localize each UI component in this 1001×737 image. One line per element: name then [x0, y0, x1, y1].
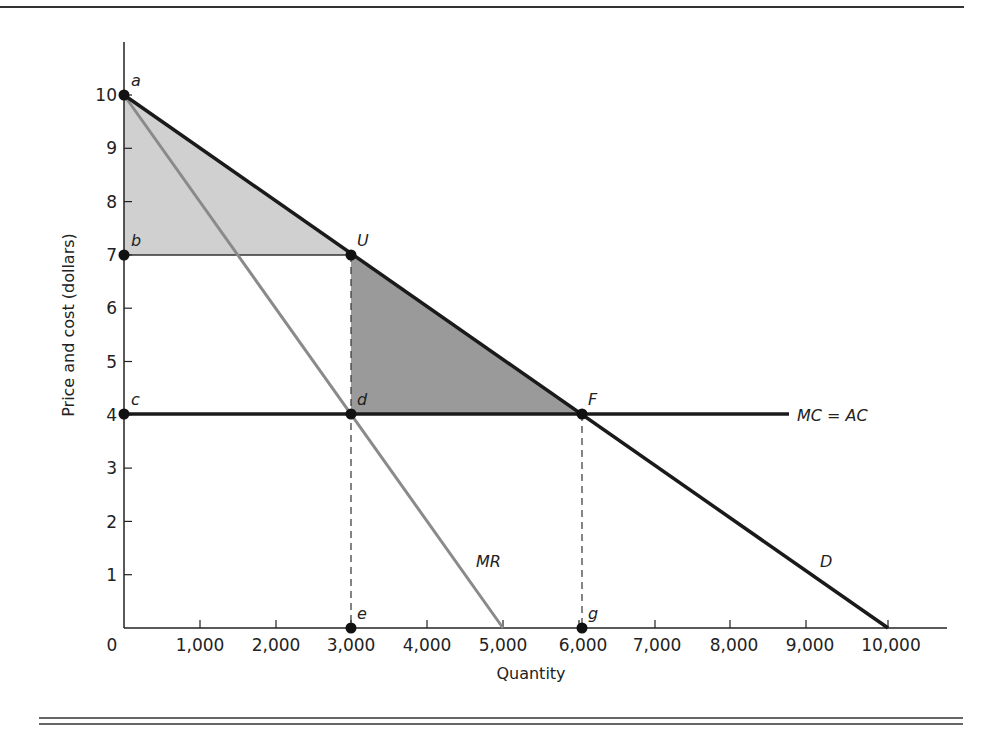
- y-tick-1: 1: [106, 565, 117, 585]
- point-e: [346, 623, 357, 634]
- y-axis-title: Price and cost (dollars): [59, 233, 78, 417]
- y-tick-4: 4: [106, 405, 117, 425]
- x-tick-2000: 2,000: [252, 635, 301, 655]
- x-tick-labels: 0 1,000 2,000 3,000 4,000 5,000 6,000 7,…: [107, 635, 921, 655]
- x-tick-6000: 6,000: [559, 635, 608, 655]
- label-g: g: [588, 604, 598, 623]
- y-tick-8: 8: [106, 192, 117, 212]
- y-tick-6: 6: [106, 298, 117, 318]
- label-a: a: [131, 71, 141, 90]
- point-c: [119, 409, 130, 420]
- label-mr: MR: [476, 552, 501, 571]
- label-d: d: [357, 390, 368, 409]
- x-tick-10000: 10,000: [861, 635, 920, 655]
- point-f: [577, 409, 588, 420]
- label-c: c: [131, 390, 140, 409]
- label-e: e: [357, 604, 367, 623]
- point-b: [119, 250, 130, 261]
- y-tick-2: 2: [106, 512, 117, 532]
- point-g: [577, 623, 588, 634]
- x-tick-8000: 8,000: [710, 635, 759, 655]
- x-ticks: [200, 620, 888, 628]
- y-tick-3: 3: [106, 458, 117, 478]
- y-tick-9: 9: [106, 138, 117, 158]
- x-tick-7000: 7,000: [633, 635, 682, 655]
- point-u: [346, 250, 357, 261]
- y-tick-7: 7: [106, 245, 117, 265]
- label-d-curve: D: [820, 552, 832, 571]
- x-tick-4000: 4,000: [403, 635, 452, 655]
- label-u: U: [357, 231, 369, 250]
- label-b: b: [131, 231, 141, 250]
- x-axis-title: Quantity: [496, 664, 565, 683]
- x-tick-1000: 1,000: [176, 635, 225, 655]
- y-tick-10: 10: [95, 85, 117, 105]
- x-tick-3000: 3,000: [327, 635, 376, 655]
- x-tick-9000: 9,000: [786, 635, 835, 655]
- point-d: [346, 409, 357, 420]
- x-tick-0: 0: [107, 635, 118, 655]
- y-tick-5: 5: [106, 352, 117, 372]
- point-a: [119, 90, 130, 101]
- label-f: F: [588, 390, 598, 409]
- x-tick-5000: 5,000: [479, 635, 528, 655]
- demand-curve: [124, 95, 888, 628]
- label-mc-ac: MC = AC: [797, 406, 869, 425]
- chart: 1 2 3 4 5 6 7 8 9 10 0 1,000 2,000 3,000…: [0, 0, 1001, 737]
- y-tick-labels: 1 2 3 4 5 6 7 8 9 10: [95, 85, 117, 585]
